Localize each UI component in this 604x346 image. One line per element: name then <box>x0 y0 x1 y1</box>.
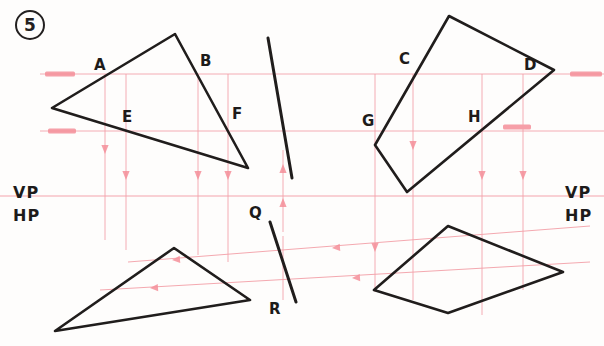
projector-H-arrow <box>478 171 485 180</box>
triangle-ABE-top-view <box>52 34 248 168</box>
drawing-canvas <box>0 0 604 346</box>
drawing-sheet: 5 ABEFCDGHQRVPHPVPHP <box>0 0 604 346</box>
label-hp-left: HP <box>13 206 40 225</box>
label-E: E <box>122 108 133 126</box>
projector-B-arrow <box>194 171 201 180</box>
projector-F-arrow <box>224 171 231 180</box>
projector-up-Q-arrow <box>279 164 286 173</box>
projector-A-arrow <box>101 145 108 154</box>
label-C: C <box>399 50 411 68</box>
label-G: G <box>362 112 375 130</box>
ref-marker-left-lower <box>48 128 76 133</box>
transfer-line-lower <box>100 262 590 290</box>
quadrilateral-front-view-right <box>374 226 563 313</box>
label-F: F <box>232 105 243 123</box>
problem-number-badge: 5 <box>15 10 45 40</box>
label-vp-right: VP <box>565 183 591 202</box>
projector-C-arrow <box>409 141 416 150</box>
label-D: D <box>524 56 537 74</box>
ref-marker-right-upper <box>570 71 602 76</box>
projector-G-arrow <box>371 243 378 252</box>
projector-D-arrow <box>519 171 526 180</box>
ref-marker-right-lower <box>503 124 531 129</box>
transfer-line-upper-arrow-0 <box>332 244 340 251</box>
oblique-line-upper <box>268 38 292 178</box>
projector-E-arrow <box>122 171 129 180</box>
projector-up-R-arrow <box>279 198 286 207</box>
transfer-line-upper-arrow-1 <box>172 256 180 263</box>
transfer-line-upper <box>128 226 590 262</box>
label-A: A <box>94 56 106 74</box>
label-vp-left: VP <box>13 183 39 202</box>
label-R: R <box>269 300 281 318</box>
label-H: H <box>468 108 481 126</box>
label-hp-right: HP <box>565 206 592 225</box>
label-Q: Q <box>249 204 262 222</box>
label-B: B <box>200 52 212 70</box>
quadrilateral-CDGH-top-view <box>375 16 554 192</box>
ref-marker-left-upper <box>45 71 75 76</box>
transfer-line-lower-arrow-1 <box>150 284 158 291</box>
